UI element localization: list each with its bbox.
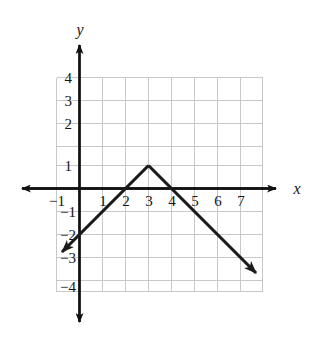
- y-tick-label: 2: [65, 116, 73, 132]
- coordinate-plane-svg: −1 1 2 3 4 5 6 7 4 3 2 1 −1 −2 −3 −4 x y: [0, 0, 321, 339]
- x-tick-label: 2: [122, 193, 130, 209]
- y-tick-label: −1: [60, 204, 76, 220]
- horizontal-gridlines: [57, 78, 263, 292]
- y-tick-label: −2: [60, 227, 76, 243]
- x-tick-label: 3: [145, 193, 153, 209]
- y-tick-label: 3: [65, 93, 73, 109]
- x-tick-label: 1: [99, 193, 107, 209]
- x-tick-label: 5: [191, 193, 199, 209]
- graph-figure: −1 1 2 3 4 5 6 7 4 3 2 1 −1 −2 −3 −4 x y: [0, 0, 321, 339]
- x-axis-label: x: [292, 180, 300, 197]
- y-tick-labels: 4 3 2 1 −1 −2 −3 −4: [60, 70, 76, 295]
- y-tick-label: 4: [65, 70, 73, 86]
- vertical-gridlines: [57, 78, 263, 292]
- y-axis-label: y: [74, 21, 84, 39]
- x-tick-label: 4: [168, 193, 176, 209]
- function-curve: [62, 166, 256, 274]
- grid-group: [57, 78, 263, 292]
- y-tick-label: −4: [60, 279, 76, 295]
- y-tick-label: 1: [65, 158, 73, 174]
- right-ray-segment: [149, 166, 257, 274]
- x-tick-label: 7: [237, 193, 245, 209]
- y-tick-label: −3: [60, 250, 76, 266]
- x-tick-label: 6: [214, 193, 222, 209]
